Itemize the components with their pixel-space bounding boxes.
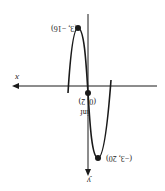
local-min-point [95,155,101,161]
inflection-label: (0, 2) [78,97,96,106]
inflection-sublabel: inf [80,108,89,117]
x-axis-label: x [15,73,20,83]
inflection-point [85,90,91,96]
cubic-graph: (3, −16) (0, 2) inf (−3, 20) x y [0,0,165,191]
y-axis-label: y [87,176,92,186]
local-max-label: (3, −16) [51,24,77,33]
local-min-label: (−3, 20) [106,154,132,163]
y-axis-arrow-icon [85,169,91,176]
